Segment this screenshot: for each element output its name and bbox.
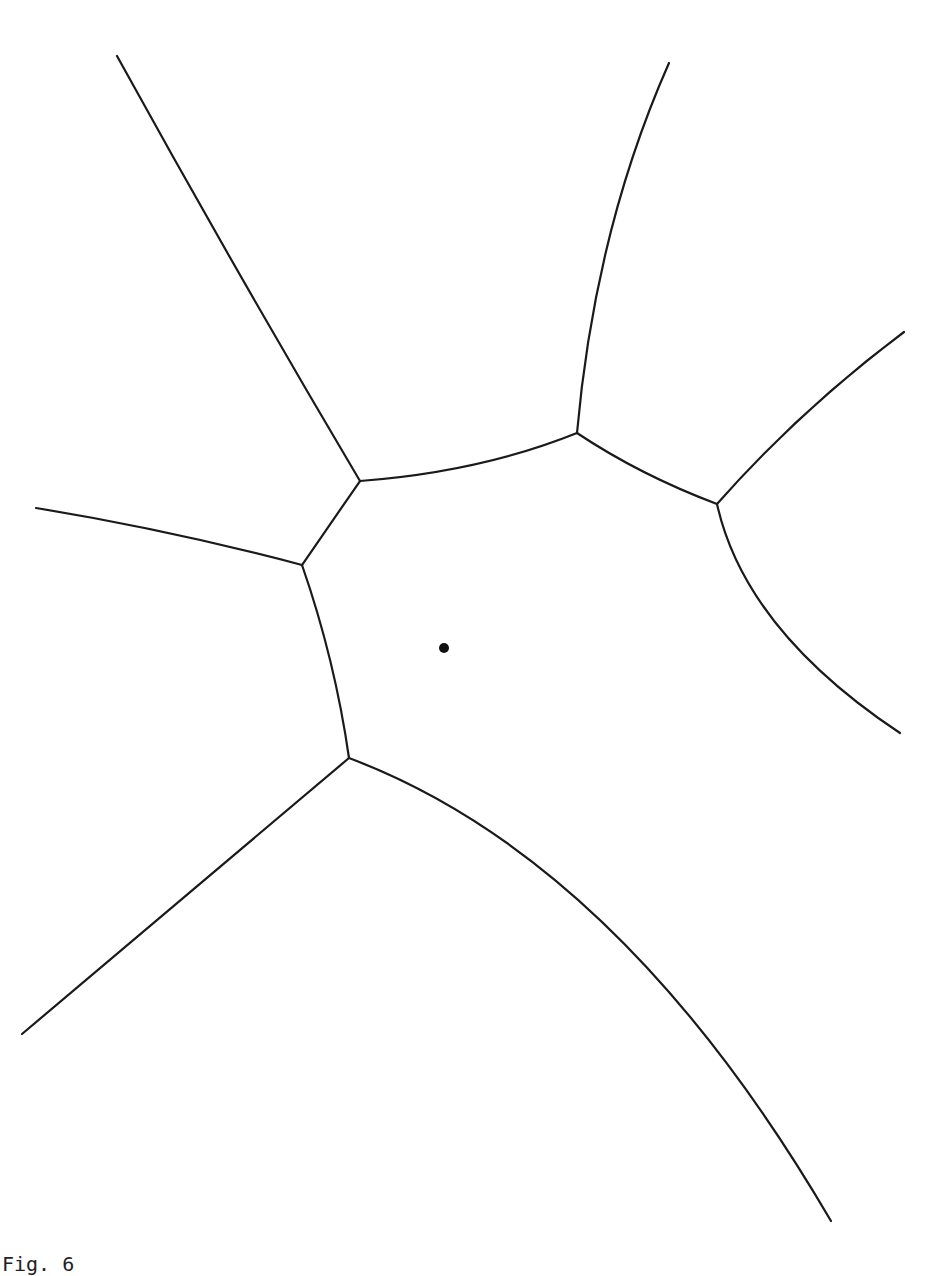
edge-bottom-left-ray [22,758,349,1034]
edge-c-d [577,433,717,504]
figure-caption: Fig. 6 [2,1254,74,1274]
edge-left-ray [36,508,302,565]
edge-b-e [302,565,349,758]
edge-bottom-right-ray [349,758,831,1221]
cell-edges [22,56,904,1221]
edge-right-upper-ray [717,332,904,504]
edge-top-left-ray [117,56,360,481]
edge-top-ray [577,63,669,433]
edge-a-c [360,433,577,481]
edge-right-lower-ray [717,504,900,733]
site-point [439,643,449,653]
edge-a-b [302,481,360,565]
